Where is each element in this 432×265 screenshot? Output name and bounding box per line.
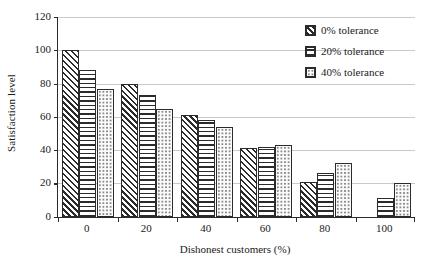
gridline: [58, 17, 415, 18]
x-axis-tick-mark: [414, 218, 415, 222]
bar: [275, 145, 292, 217]
bar: [198, 120, 215, 216]
x-axis-title: Dishonest customers (%): [55, 243, 415, 255]
legend-item-label: 20% tolerance: [321, 45, 384, 57]
x-axis-tick-label: 80: [300, 222, 350, 234]
legend-swatch-icon: [305, 46, 316, 57]
y-axis-tick-label: 100: [11, 44, 51, 55]
y-axis-tick-mark: [54, 183, 58, 184]
x-axis-tick-mark: [296, 218, 297, 222]
legend-item[interactable]: 0% tolerance: [305, 24, 384, 36]
bar: [62, 50, 79, 216]
legend-swatch-icon: [305, 67, 316, 78]
chart-legend: 0% tolerance 20% tolerance 40% tolerance: [305, 24, 384, 78]
x-axis-tick-mark: [118, 218, 119, 222]
x-axis-tick-mark: [58, 218, 59, 222]
x-axis-tick-label: 100: [359, 222, 409, 234]
legend-item-label: 0% tolerance: [321, 24, 379, 36]
y-axis-tick-mark: [54, 84, 58, 85]
y-axis-tick-label: 20: [11, 177, 51, 188]
x-axis-tick-label: 20: [121, 222, 171, 234]
y-axis-tick-label: 120: [11, 11, 51, 22]
bar: [79, 70, 96, 216]
bar: [394, 183, 411, 216]
bar: [240, 148, 257, 216]
x-axis-tick-mark: [356, 218, 357, 222]
y-axis-tick-mark: [54, 117, 58, 118]
y-axis-tick-label: 60: [11, 111, 51, 122]
bar: [335, 163, 352, 216]
y-axis-tick-label: 80: [11, 78, 51, 89]
bar: [317, 173, 334, 216]
x-axis-tick-label: 40: [181, 222, 231, 234]
bar: [300, 182, 317, 217]
y-axis-tick-mark: [54, 17, 58, 18]
bar: [97, 89, 114, 217]
y-axis-tick-label: 0: [11, 211, 51, 222]
x-axis-tick-label: 0: [62, 222, 112, 234]
gridline: [58, 84, 415, 85]
legend-item[interactable]: 40% tolerance: [305, 66, 384, 78]
bar: [181, 115, 198, 216]
y-axis-tick-mark: [54, 150, 58, 151]
y-axis-tick-label: 40: [11, 144, 51, 155]
bar: [216, 127, 233, 217]
legend-item-label: 40% tolerance: [321, 66, 384, 78]
bar-chart-figure: Satisfaction level Dishonest customers (…: [0, 0, 432, 265]
bar: [156, 109, 173, 217]
legend-swatch-icon: [305, 25, 316, 36]
x-axis-tick-mark: [177, 218, 178, 222]
bar: [258, 147, 275, 217]
y-axis-tick-mark: [54, 217, 58, 218]
bar: [377, 198, 394, 216]
bar: [121, 84, 138, 217]
x-axis-tick-label: 60: [240, 222, 290, 234]
y-axis-tick-mark: [54, 50, 58, 51]
x-axis-tick-mark: [237, 218, 238, 222]
bar: [139, 95, 156, 216]
legend-item[interactable]: 20% tolerance: [305, 45, 384, 57]
